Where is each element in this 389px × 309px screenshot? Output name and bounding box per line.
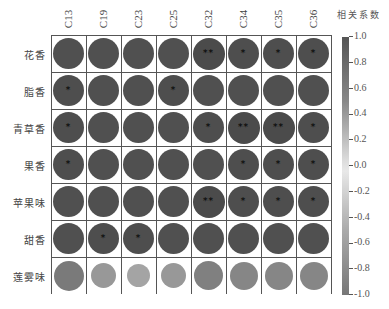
matrix-cell: ** xyxy=(191,183,226,220)
column-label: C25 xyxy=(156,6,191,32)
matrix-cell: * xyxy=(296,109,331,146)
correlation-circle xyxy=(123,186,154,217)
correlation-circle: ** xyxy=(228,112,260,144)
correlation-circle xyxy=(88,186,119,217)
matrix-cell xyxy=(86,35,121,72)
row-label: 莲雾味 xyxy=(0,269,46,284)
matrix-cell xyxy=(261,72,296,109)
column-label-text: C23 xyxy=(133,10,145,28)
significance-marker: * xyxy=(276,49,282,58)
significance-marker: ** xyxy=(203,197,214,206)
correlation-circle: ** xyxy=(193,38,225,70)
grid-line-vertical xyxy=(51,35,52,294)
grid-line-horizontal xyxy=(51,183,331,184)
matrix-cell: * xyxy=(121,220,156,257)
row-label: 脂香 xyxy=(0,84,46,99)
matrix-cell: ** xyxy=(191,35,226,72)
matrix-cell xyxy=(86,183,121,220)
significance-marker: * xyxy=(241,197,247,206)
correlation-circle: * xyxy=(123,223,154,254)
colorbar-tick-label: -0.8 xyxy=(349,262,370,273)
correlation-circle: * xyxy=(53,75,84,106)
matrix-cell xyxy=(51,35,86,72)
matrix-cell xyxy=(226,72,261,109)
matrix-cell: * xyxy=(51,72,86,109)
matrix-cell xyxy=(121,72,156,109)
correlation-circle xyxy=(193,223,224,254)
colorbar-tick-label: 0.4 xyxy=(349,107,367,118)
correlation-circle: * xyxy=(263,149,294,180)
grid-line-vertical xyxy=(191,35,192,294)
correlation-matrix-chart: C13C19C23C25C32C34C35C36 花香脂香青草香果香苹果味甜香莲… xyxy=(0,0,389,309)
colorbar-tick-label: -1.0 xyxy=(349,288,370,299)
matrix-cell: * xyxy=(296,146,331,183)
matrix-cell xyxy=(156,220,191,257)
correlation-circle: * xyxy=(298,38,329,69)
matrix-cell xyxy=(121,109,156,146)
row-label: 苹果味 xyxy=(0,195,46,210)
correlation-circle xyxy=(158,223,189,254)
correlation-circle: * xyxy=(88,223,119,254)
matrix-cell: ** xyxy=(226,109,261,146)
matrix-cell: * xyxy=(261,183,296,220)
significance-marker: * xyxy=(136,234,142,243)
correlation-circle xyxy=(123,112,154,143)
matrix-cell: * xyxy=(51,109,86,146)
correlation-circle xyxy=(263,75,294,106)
correlation-circle xyxy=(88,75,119,106)
correlation-circle: * xyxy=(263,186,294,217)
matrix-cell xyxy=(156,183,191,220)
correlation-circle xyxy=(194,261,223,290)
significance-marker: ** xyxy=(238,123,249,132)
correlation-circle xyxy=(263,223,294,254)
matrix-cell xyxy=(191,257,226,294)
matrix-cell: * xyxy=(86,220,121,257)
grid-line-vertical xyxy=(156,35,157,294)
correlation-circle xyxy=(161,263,186,288)
colorbar-tick-label: -0.4 xyxy=(349,211,370,222)
grid-line-horizontal xyxy=(51,109,331,110)
grid-line-vertical xyxy=(261,35,262,294)
column-label: C13 xyxy=(51,6,86,32)
correlation-circle: * xyxy=(53,112,84,143)
matrix-cell: * xyxy=(156,72,191,109)
correlation-circle xyxy=(88,112,119,143)
colorbar-tick-label: 0.6 xyxy=(349,82,367,93)
matrix-cell xyxy=(296,220,331,257)
significance-marker: * xyxy=(311,49,317,58)
matrix-cell: * xyxy=(226,183,261,220)
colorbar-title: 相关系数 xyxy=(337,8,381,21)
matrix-cell xyxy=(121,257,156,294)
significance-marker: * xyxy=(206,123,212,132)
significance-marker: * xyxy=(311,197,317,206)
column-label-text: C19 xyxy=(98,10,110,28)
matrix-cell xyxy=(156,257,191,294)
matrix-cell xyxy=(261,257,296,294)
grid-line-horizontal xyxy=(51,146,331,147)
matrix-cell: * xyxy=(261,35,296,72)
matrix-cell xyxy=(226,220,261,257)
matrix-cell: * xyxy=(191,109,226,146)
correlation-circle xyxy=(53,38,84,69)
matrix-cell xyxy=(86,72,121,109)
significance-marker: * xyxy=(241,160,247,169)
grid-line-vertical xyxy=(296,35,297,294)
matrix-cell: * xyxy=(226,146,261,183)
correlation-circle xyxy=(158,186,189,217)
correlation-circle: * xyxy=(263,38,294,69)
correlation-circle: ** xyxy=(263,112,295,144)
grid-line-vertical xyxy=(86,35,87,294)
correlation-circle xyxy=(123,149,154,180)
matrix-cell xyxy=(296,72,331,109)
colorbar-tick-label: 0.8 xyxy=(349,56,367,67)
correlation-circle xyxy=(228,223,259,254)
correlation-circle: * xyxy=(298,186,329,217)
correlation-circle xyxy=(158,112,189,143)
column-label-text: C25 xyxy=(168,10,180,28)
grid-line-horizontal xyxy=(51,257,331,258)
matrix-cell xyxy=(86,109,121,146)
correlation-circle: * xyxy=(298,149,329,180)
correlation-circle: * xyxy=(158,75,189,106)
row-label: 甜香 xyxy=(0,232,46,247)
significance-marker: * xyxy=(241,49,247,58)
